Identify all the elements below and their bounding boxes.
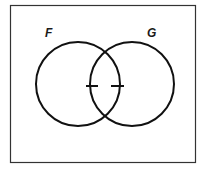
set-g-circle <box>90 42 174 126</box>
set-f-label: F <box>45 26 53 40</box>
set-g-label: G <box>147 26 156 40</box>
venn-diagram: F G <box>0 0 206 170</box>
set-f-circle <box>36 42 120 126</box>
universe-frame <box>11 6 196 163</box>
